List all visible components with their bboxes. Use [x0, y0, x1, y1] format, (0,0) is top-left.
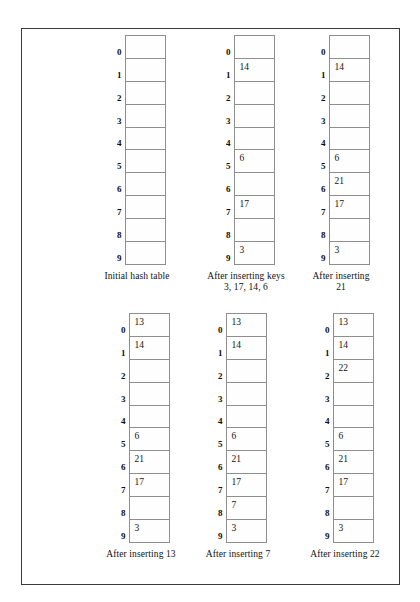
- hash-slot-7: 17: [235, 196, 274, 219]
- row-index-2: 2: [113, 359, 129, 382]
- row-index-5: 5: [317, 427, 333, 450]
- hash-slot-1: 14: [235, 59, 274, 82]
- hash-slot-8: [334, 497, 373, 520]
- hash-slot-4: [334, 406, 373, 429]
- row-index-8: 8: [210, 496, 226, 519]
- hash-slot-8: [235, 219, 274, 242]
- hash-slot-5: 6: [227, 428, 266, 451]
- hash-slot-9: 3: [235, 242, 274, 265]
- row-index-0: 0: [218, 35, 234, 58]
- row-index-8: 8: [317, 496, 333, 519]
- hash-slot-5: [126, 150, 165, 173]
- hash-slot-7: 17: [130, 474, 169, 497]
- row-index-6: 6: [218, 172, 234, 195]
- hash-slot-7: [126, 196, 165, 219]
- hash-table-panel-after-21: 0 1 2 3 4 5 6 7 8 9 14 6: [280, 35, 402, 294]
- row-index-2: 2: [313, 81, 329, 104]
- hash-slot-7: 17: [334, 474, 373, 497]
- hash-slot-4: [227, 406, 266, 429]
- row-index-4: 4: [210, 405, 226, 428]
- hash-slot-0: [330, 36, 369, 59]
- hash-slot-column: 13 14 6 21 17 3: [129, 313, 170, 543]
- hash-slot-3: [334, 383, 373, 406]
- hash-slot-9: 3: [330, 242, 369, 265]
- hash-slot-5: 6: [130, 428, 169, 451]
- hash-slot-8: [330, 219, 369, 242]
- row-index-5: 5: [218, 149, 234, 172]
- row-index-7: 7: [113, 473, 129, 496]
- hash-slot-6: [235, 173, 274, 196]
- row-index-5: 5: [113, 427, 129, 450]
- hash-slot-0: 13: [227, 314, 266, 337]
- hash-slot-9: 3: [227, 520, 266, 543]
- hash-slot-2: [235, 82, 274, 105]
- row-index-9: 9: [218, 241, 234, 264]
- row-index-0: 0: [313, 35, 329, 58]
- hash-table: 0 1 2 3 4 5 6 7 8 9 13 14 6: [210, 313, 267, 543]
- hash-slot-3: [130, 383, 169, 406]
- row-index-3: 3: [210, 382, 226, 405]
- row-index-7: 7: [218, 195, 234, 218]
- row-index-8: 8: [313, 218, 329, 241]
- hash-slot-column: 14 6 21 17 3: [329, 35, 370, 265]
- hash-slot-3: [330, 105, 369, 128]
- hash-slot-6: 21: [330, 173, 369, 196]
- row-index-1: 1: [109, 58, 125, 81]
- row-index-column: 0 1 2 3 4 5 6 7 8 9: [113, 313, 129, 542]
- hash-slot-9: 3: [334, 520, 373, 543]
- row-index-3: 3: [109, 104, 125, 127]
- row-index-8: 8: [109, 218, 125, 241]
- row-index-column: 0 1 2 3 4 5 6 7 8 9: [313, 35, 329, 264]
- hash-slot-column: 14 6 17 3: [234, 35, 275, 265]
- hash-slot-column: [125, 35, 166, 265]
- hash-slot-column: 13 14 22 6 21 17 3: [333, 313, 374, 543]
- hash-slot-2: [126, 82, 165, 105]
- hash-table: 0 1 2 3 4 5 6 7 8 9 14 6: [313, 35, 370, 265]
- row-index-4: 4: [109, 127, 125, 150]
- row-index-3: 3: [317, 382, 333, 405]
- hash-slot-9: [126, 242, 165, 265]
- hash-slot-8: [130, 497, 169, 520]
- row-index-0: 0: [317, 313, 333, 336]
- row-index-3: 3: [218, 104, 234, 127]
- row-index-8: 8: [218, 218, 234, 241]
- row-index-0: 0: [113, 313, 129, 336]
- row-index-6: 6: [317, 450, 333, 473]
- figure-frame: 0 1 2 3 4 5 6 7 8 9: [21, 28, 400, 585]
- hash-slot-5: 6: [330, 150, 369, 173]
- hash-slot-1: 14: [330, 59, 369, 82]
- panel-caption: After inserting 21: [280, 271, 402, 294]
- row-index-1: 1: [210, 336, 226, 359]
- hash-slot-0: 13: [334, 314, 373, 337]
- row-index-7: 7: [313, 195, 329, 218]
- row-index-2: 2: [218, 81, 234, 104]
- row-index-4: 4: [313, 127, 329, 150]
- row-index-3: 3: [313, 104, 329, 127]
- row-index-9: 9: [210, 519, 226, 542]
- row-index-6: 6: [313, 172, 329, 195]
- hash-table: 0 1 2 3 4 5 6 7 8 9 14 6: [218, 35, 275, 265]
- row-index-2: 2: [109, 81, 125, 104]
- hash-slot-1: 14: [334, 337, 373, 360]
- row-index-3: 3: [113, 382, 129, 405]
- hash-slot-7: 17: [227, 474, 266, 497]
- row-index-column: 0 1 2 3 4 5 6 7 8 9: [109, 35, 125, 264]
- hash-slot-8: [126, 219, 165, 242]
- hash-slot-5: 6: [334, 428, 373, 451]
- row-index-9: 9: [109, 241, 125, 264]
- hash-slot-4: [130, 406, 169, 429]
- row-index-6: 6: [113, 450, 129, 473]
- hash-slot-2: [227, 360, 266, 383]
- row-index-5: 5: [313, 149, 329, 172]
- row-index-4: 4: [113, 405, 129, 428]
- row-index-6: 6: [210, 450, 226, 473]
- hash-slot-4: [330, 128, 369, 151]
- row-index-7: 7: [109, 195, 125, 218]
- row-index-5: 5: [109, 149, 125, 172]
- hash-slot-6: 21: [334, 451, 373, 474]
- hash-slot-3: [126, 105, 165, 128]
- row-index-7: 7: [210, 473, 226, 496]
- hash-slot-2: [130, 360, 169, 383]
- row-index-0: 0: [210, 313, 226, 336]
- row-index-9: 9: [113, 519, 129, 542]
